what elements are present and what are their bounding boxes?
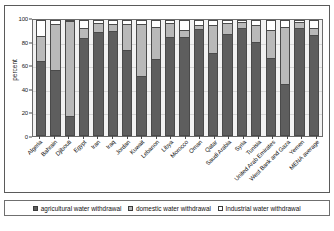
bar-segment-industrial[interactable] bbox=[37, 21, 45, 37]
bar-column[interactable] bbox=[34, 20, 48, 136]
stacked-bar[interactable] bbox=[251, 20, 261, 136]
bar-segment-agricultural[interactable] bbox=[137, 77, 145, 135]
stacked-bar[interactable] bbox=[65, 20, 75, 136]
stacked-bar[interactable] bbox=[266, 20, 276, 136]
bar-column[interactable] bbox=[220, 20, 234, 136]
bar-column[interactable] bbox=[235, 20, 249, 136]
stacked-bar[interactable] bbox=[136, 20, 146, 136]
stacked-bar[interactable] bbox=[309, 20, 319, 136]
stacked-bar[interactable] bbox=[165, 20, 175, 136]
bar-segment-industrial[interactable] bbox=[180, 21, 188, 31]
legend-item[interactable]: agricultural water withdrawal bbox=[33, 205, 121, 212]
x-tick-group: Morocco bbox=[178, 137, 193, 195]
bar-column[interactable] bbox=[48, 20, 62, 136]
x-tick-group: MENA average bbox=[308, 137, 323, 195]
bar-segment-agricultural[interactable] bbox=[109, 32, 117, 135]
bar-segment-agricultural[interactable] bbox=[267, 59, 275, 135]
bar-column[interactable] bbox=[192, 20, 206, 136]
stacked-bar[interactable] bbox=[122, 20, 132, 136]
y-tick-label: 100 bbox=[19, 16, 28, 22]
x-tick-group: Oman bbox=[192, 137, 207, 195]
bar-column[interactable] bbox=[77, 20, 91, 136]
bar-segment-industrial[interactable] bbox=[267, 21, 275, 31]
bar-segment-agricultural[interactable] bbox=[37, 62, 45, 135]
stacked-bar[interactable] bbox=[108, 20, 118, 136]
bar-segment-domestic[interactable] bbox=[37, 37, 45, 63]
stacked-bar[interactable] bbox=[50, 20, 60, 136]
stacked-bar[interactable] bbox=[79, 20, 89, 136]
bar-segment-domestic[interactable] bbox=[252, 26, 260, 43]
legend-item[interactable]: Industrial water withdrawal bbox=[218, 205, 301, 212]
bar-column[interactable] bbox=[91, 20, 105, 136]
bar-segment-agricultural[interactable] bbox=[252, 43, 260, 135]
y-tick-label: 20 bbox=[22, 110, 28, 116]
bar-column[interactable] bbox=[106, 20, 120, 136]
stacked-bar[interactable] bbox=[222, 20, 232, 136]
stacked-bar[interactable] bbox=[151, 20, 161, 136]
bar-column[interactable] bbox=[134, 20, 148, 136]
bar-column[interactable] bbox=[264, 20, 278, 136]
legend-item[interactable]: domestic water withdrawal bbox=[128, 205, 210, 212]
stacked-bar[interactable] bbox=[179, 20, 189, 136]
bar-segment-agricultural[interactable] bbox=[195, 30, 203, 135]
bar-segment-agricultural[interactable] bbox=[66, 117, 74, 135]
bar-segment-industrial[interactable] bbox=[281, 21, 289, 28]
x-tick-label: Iraq bbox=[105, 139, 116, 150]
bar-segment-domestic[interactable] bbox=[51, 25, 59, 71]
bar-column[interactable] bbox=[249, 20, 263, 136]
bar-column[interactable] bbox=[177, 20, 191, 136]
bar-segment-domestic[interactable] bbox=[152, 28, 160, 60]
bar-column[interactable] bbox=[292, 20, 306, 136]
bar-segment-domestic[interactable] bbox=[123, 25, 131, 51]
legend-label: agricultural water withdrawal bbox=[41, 205, 122, 212]
bar-segment-domestic[interactable] bbox=[223, 24, 231, 35]
stacked-bar[interactable] bbox=[280, 20, 290, 136]
bar-segment-agricultural[interactable] bbox=[310, 36, 318, 135]
bar-series-container bbox=[33, 20, 322, 136]
bar-segment-domestic[interactable] bbox=[310, 29, 318, 37]
bar-segment-domestic[interactable] bbox=[166, 24, 174, 37]
legend-label: domestic water withdrawal bbox=[136, 205, 211, 212]
bar-segment-agricultural[interactable] bbox=[180, 38, 188, 135]
bar-segment-domestic[interactable] bbox=[80, 29, 88, 39]
bar-column[interactable] bbox=[63, 20, 77, 136]
bar-segment-domestic[interactable] bbox=[137, 25, 145, 76]
bar-segment-agricultural[interactable] bbox=[281, 85, 289, 135]
bar-segment-domestic[interactable] bbox=[66, 22, 74, 117]
bar-segment-domestic[interactable] bbox=[209, 26, 217, 54]
x-axis-labels: AlgeriaBahrainDjiboutiEgyptIranIraqJorda… bbox=[32, 137, 323, 195]
bar-segment-domestic[interactable] bbox=[109, 25, 117, 32]
bar-segment-agricultural[interactable] bbox=[152, 60, 160, 135]
bar-segment-agricultural[interactable] bbox=[209, 54, 217, 135]
bar-segment-agricultural[interactable] bbox=[166, 38, 174, 135]
stacked-bar[interactable] bbox=[208, 20, 218, 136]
bar-segment-agricultural[interactable] bbox=[295, 29, 303, 135]
x-tick-group: Jordan bbox=[119, 137, 134, 195]
stacked-bar[interactable] bbox=[194, 20, 204, 136]
bar-column[interactable] bbox=[307, 20, 321, 136]
bar-column[interactable] bbox=[149, 20, 163, 136]
bar-segment-agricultural[interactable] bbox=[123, 51, 131, 135]
bar-column[interactable] bbox=[278, 20, 292, 136]
bar-segment-industrial[interactable] bbox=[152, 21, 160, 28]
stacked-bar[interactable] bbox=[93, 20, 103, 136]
bar-segment-agricultural[interactable] bbox=[94, 33, 102, 135]
bar-segment-domestic[interactable] bbox=[267, 31, 275, 59]
plot-area bbox=[32, 19, 323, 137]
bar-column[interactable] bbox=[206, 20, 220, 136]
bar-segment-agricultural[interactable] bbox=[51, 71, 59, 135]
bar-segment-industrial[interactable] bbox=[80, 21, 88, 29]
bar-segment-domestic[interactable] bbox=[94, 24, 102, 33]
bar-segment-domestic[interactable] bbox=[180, 31, 188, 38]
stacked-bar[interactable] bbox=[36, 20, 46, 136]
bar-segment-industrial[interactable] bbox=[310, 21, 318, 29]
y-tick-label: 40 bbox=[22, 87, 28, 93]
bar-segment-agricultural[interactable] bbox=[80, 39, 88, 135]
stacked-bar[interactable] bbox=[237, 20, 247, 136]
stacked-bar[interactable] bbox=[294, 20, 304, 136]
bar-column[interactable] bbox=[163, 20, 177, 136]
bar-segment-agricultural[interactable] bbox=[238, 29, 246, 135]
bar-segment-agricultural[interactable] bbox=[223, 35, 231, 135]
bar-segment-domestic[interactable] bbox=[281, 28, 289, 85]
bar-column[interactable] bbox=[120, 20, 134, 136]
